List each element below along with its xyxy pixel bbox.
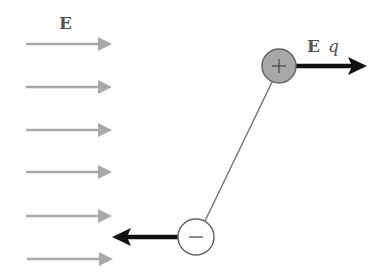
field-arrow-icon: [26, 80, 112, 94]
force-arrow-left-icon: [112, 228, 178, 246]
force-label-field: E: [307, 36, 320, 56]
positive-charge: [262, 49, 296, 83]
dipole-rod: [205, 82, 272, 221]
force-arrow-right-icon: [296, 57, 367, 75]
field-label: E: [59, 15, 72, 32]
force-label-charge: q: [328, 36, 339, 56]
field-arrow-icon: [26, 165, 112, 179]
field-arrow-icon: [27, 252, 113, 266]
dipole-diagram: E E q: [0, 0, 384, 272]
force-label: E q: [307, 38, 339, 55]
field-arrows: [26, 37, 113, 266]
field-arrow-icon: [26, 209, 112, 223]
field-arrow-icon: [26, 37, 112, 51]
negative-charge: [178, 219, 214, 255]
field-arrow-icon: [26, 123, 112, 137]
